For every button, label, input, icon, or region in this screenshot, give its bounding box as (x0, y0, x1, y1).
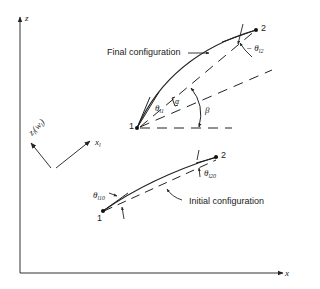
beta-arc (191, 88, 201, 127)
beta-label: β (205, 106, 209, 115)
theta-l2-label: − θl2 (246, 44, 263, 54)
initial-label-leader (167, 189, 182, 200)
local-z-axis (31, 143, 51, 168)
initial-node2-dot (214, 155, 218, 159)
initial-node1-label: 1 (97, 214, 102, 223)
final-node1-label: 1 (129, 122, 134, 131)
initial-configuration (101, 150, 218, 219)
final-node2-label: 2 (261, 24, 266, 33)
final-configuration-label: Final configuration (107, 48, 181, 57)
final-configuration (135, 24, 272, 130)
local-frame (31, 141, 90, 168)
theta-l20-label: θl20 (204, 169, 216, 179)
x-axis-label: x (285, 269, 289, 278)
z-axis-label: z (25, 14, 29, 23)
rotated-reference (140, 70, 272, 127)
theta-l1-label: θl1 (155, 104, 164, 114)
initial-configuration-label: Initial configuration (189, 197, 264, 206)
local-x-label: xl (95, 138, 101, 148)
theta-l10-label: θl10 (93, 191, 105, 201)
final-node1-dot (135, 126, 139, 130)
local-x-axis (56, 141, 90, 168)
final-node2-dot (254, 28, 258, 32)
alpha-label: α (175, 98, 179, 106)
initial-node2-label: 2 (221, 151, 226, 160)
